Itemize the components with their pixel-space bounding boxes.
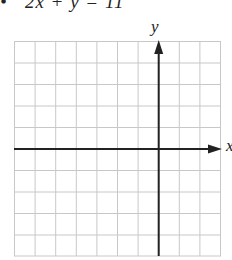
y-axis-label: y	[151, 17, 159, 37]
x-axis-arrow-icon	[208, 145, 222, 154]
coordinate-grid	[0, 0, 232, 260]
x-axis-label: x	[226, 136, 232, 156]
y-axis-arrow-icon	[154, 40, 163, 54]
